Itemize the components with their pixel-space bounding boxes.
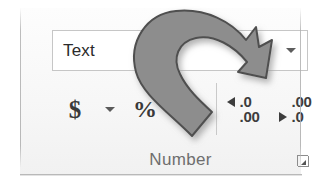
dialog-launcher-icon[interactable] [296,154,312,170]
increase-decimal-icon: .0 .00 [227,94,260,124]
chevron-down-icon[interactable] [286,48,296,53]
decrease-decimal-button[interactable]: .00 .0 [268,80,318,138]
arrow-right-icon [279,112,292,122]
number-format-value: Text [63,40,95,62]
accounting-number-format-button[interactable]: $ [52,80,98,138]
percent-sign-icon: % [133,97,157,121]
chevron-down-icon [105,107,115,112]
number-command-row: $ % .0 .00 [52,80,308,138]
increase-decimal-button[interactable]: .0 .00 [216,80,270,138]
decrease-decimal-top-line: .00 [279,94,312,109]
increase-decimal-top-text: .0 [240,94,252,109]
increase-decimal-top-line: .0 [227,94,260,109]
decrease-decimal-icon: .00 .0 [279,94,312,124]
increase-decimal-bottom-line: .00 [227,109,260,124]
decrease-decimal-bottom-text: .0 [292,109,304,124]
ribbon-bottom-highlight [20,175,302,176]
accounting-number-format-menu-button[interactable] [98,80,122,138]
group-separator-left [20,8,21,168]
decrease-decimal-top-text: .00 [292,94,312,109]
dollar-sign-icon: $ [69,97,82,122]
increase-decimal-bottom-text: .00 [240,109,260,124]
arrow-left-icon [227,97,240,107]
group-separator-right [300,8,301,168]
ribbon-group-number: Text $ % .0 [20,8,301,176]
decrease-decimal-bottom-line: .0 [279,109,312,124]
percent-style-button[interactable]: % [122,80,168,138]
group-label-number: Number [40,150,318,170]
excel-ribbon-number-group-screenshot: Text $ % .0 [0,0,318,189]
number-format-combobox[interactable]: Text [52,30,308,71]
